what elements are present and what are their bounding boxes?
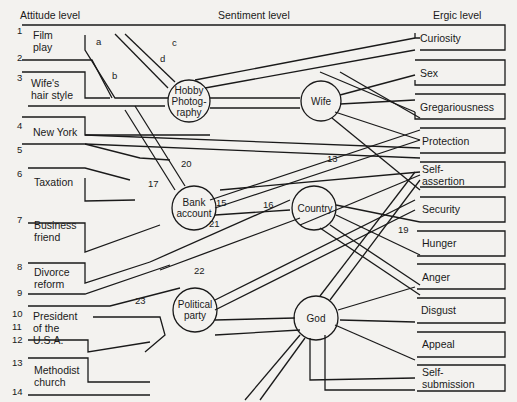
node-country: Country [290, 203, 340, 214]
path-number-23: 23 [135, 295, 146, 306]
erg-disgust: Disgust [421, 304, 456, 316]
path-number-22: 22 [194, 265, 205, 276]
erg-gregariousness: Gregariousness [420, 101, 494, 113]
erg-self-submission: Self- submission [422, 366, 475, 390]
node-wife: Wife [301, 96, 341, 107]
line-number-1: 1 [17, 25, 22, 36]
erg-hunger: Hunger [422, 237, 456, 249]
line-number-4: 4 [17, 120, 22, 131]
erg-protection: Protection [422, 135, 469, 147]
line-number-13: 13 [12, 357, 23, 368]
line-number-8: 8 [17, 261, 22, 272]
line-number-3: 3 [17, 72, 22, 83]
node-political-party: Political party [168, 299, 222, 321]
node-god: God [296, 313, 336, 324]
attitude-wifes-hair-style: Wife's hair style [31, 77, 73, 101]
attitude-film-play: Film play [33, 29, 53, 53]
erg-appeal: Appeal [422, 338, 455, 350]
line-number-5: 5 [17, 144, 22, 155]
line-number-9: 9 [17, 287, 22, 298]
line-number-12: 12 [12, 334, 23, 345]
path-label-d: d [160, 53, 165, 64]
path-label-c: c [172, 37, 177, 48]
sentiment-level-header: Sentiment level [218, 9, 290, 21]
node-hobby-photography: Hobby Photog- raphy [163, 85, 215, 118]
path-number-17: 17 [148, 178, 159, 189]
erg-curiosity: Curiosity [420, 32, 461, 44]
attitude-new-york: New York [33, 126, 77, 138]
line-number-10: 10 [12, 308, 23, 319]
attitude-president: President of the U.S.A. [33, 310, 77, 346]
erg-self-assertion: Self- assertion [422, 163, 465, 187]
line-number-14: 14 [12, 386, 23, 397]
attitude-methodist-church: Methodist church [34, 364, 80, 388]
path-number-13: 13 [327, 153, 338, 164]
path-number-19: 19 [398, 224, 409, 235]
path-number-21: 21 [209, 218, 220, 229]
path-number-16: 16 [263, 199, 274, 210]
path-number-20: 20 [181, 158, 192, 169]
node-bank-account: Bank account [170, 197, 218, 219]
erg-anger: Anger [422, 271, 450, 283]
attitude-divorce-reform: Divorce reform [34, 266, 70, 290]
attitude-business-friend: Business friend [34, 219, 77, 243]
attitude-taxation: Taxation [34, 176, 73, 188]
attitude-level-header: Attitude level [20, 9, 80, 21]
line-number-2: 2 [17, 52, 22, 63]
erg-security: Security [422, 203, 460, 215]
ergic-level-header: Ergic level [433, 9, 481, 21]
path-number-15: 15 [216, 197, 227, 208]
path-label-a: a [96, 36, 101, 47]
line-number-11: 11 [12, 321, 22, 332]
line-number-7: 7 [17, 214, 22, 225]
path-label-b: b [112, 70, 117, 81]
line-number-6: 6 [17, 168, 22, 179]
erg-sex: Sex [420, 67, 438, 79]
dynamic-lattice-diagram: Attitude level Sentiment level Ergic lev… [0, 0, 517, 402]
